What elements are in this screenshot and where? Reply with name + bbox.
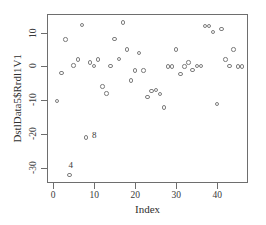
point-annotation-label: 8 xyxy=(92,131,97,140)
data-point xyxy=(231,47,235,51)
data-point xyxy=(190,68,194,72)
data-point xyxy=(92,64,96,68)
data-point xyxy=(223,57,227,61)
data-point xyxy=(63,37,67,41)
data-point xyxy=(199,64,203,68)
data-point xyxy=(207,24,211,28)
plot-data-area xyxy=(47,14,248,183)
data-point xyxy=(227,64,231,68)
x-axis-tick-label: 20 xyxy=(122,190,148,200)
data-point xyxy=(100,84,104,88)
data-point xyxy=(174,47,178,51)
data-point xyxy=(76,57,80,61)
scatter-plot-figure: 100-10-20-30 010203040 DstlData5$Rrdl1V1… xyxy=(0,0,266,225)
x-axis-tick-label: 0 xyxy=(40,190,66,200)
data-point xyxy=(186,60,190,64)
data-point xyxy=(141,68,145,72)
data-point xyxy=(71,63,75,67)
data-point xyxy=(80,23,84,27)
data-point xyxy=(59,71,63,75)
data-point xyxy=(108,64,112,68)
y-axis-tick xyxy=(41,100,47,101)
data-point xyxy=(67,173,71,177)
x-axis-tick xyxy=(135,183,136,189)
y-axis-title-text: DstlData5$Rrdl1V1 xyxy=(11,54,23,143)
y-axis-tick xyxy=(41,168,47,169)
data-point xyxy=(137,51,141,55)
data-point xyxy=(215,102,219,106)
y-axis-title: DstlData5$Rrdl1V1 xyxy=(10,14,24,183)
data-point xyxy=(133,68,137,72)
data-point xyxy=(162,105,166,109)
data-point xyxy=(96,57,100,61)
data-point xyxy=(104,91,108,95)
data-point xyxy=(182,64,186,68)
x-axis-tick xyxy=(94,183,95,189)
x-axis-tick-label: 40 xyxy=(204,190,230,200)
x-axis-tick-label: 30 xyxy=(163,190,189,200)
y-axis-tick xyxy=(41,33,47,34)
x-axis-tick xyxy=(53,183,54,189)
y-axis-tick xyxy=(41,66,47,67)
data-point xyxy=(154,88,158,92)
y-axis-tick xyxy=(41,134,47,135)
data-point xyxy=(125,47,129,51)
data-point xyxy=(129,78,133,82)
data-point xyxy=(170,64,174,68)
data-point xyxy=(117,57,121,61)
data-point xyxy=(121,20,125,24)
data-point xyxy=(145,95,149,99)
data-point xyxy=(240,64,244,68)
x-axis-tick xyxy=(176,183,177,189)
data-point xyxy=(84,135,88,139)
x-axis-title: Index xyxy=(47,203,248,215)
data-point xyxy=(112,37,116,41)
point-annotation-label: 4 xyxy=(69,161,74,170)
x-axis-tick-label: 10 xyxy=(81,190,107,200)
data-point xyxy=(178,72,182,76)
data-point xyxy=(211,30,215,34)
data-point xyxy=(158,92,162,96)
data-point xyxy=(55,99,59,103)
x-axis-tick xyxy=(217,183,218,189)
data-point xyxy=(219,27,223,31)
